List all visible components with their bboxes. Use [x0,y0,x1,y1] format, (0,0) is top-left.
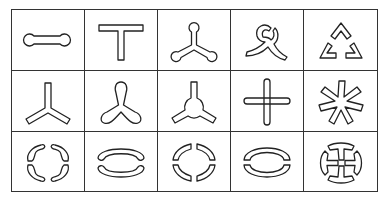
cell-r1-c4 [231,10,304,71]
cell-r1-c3 [158,10,231,71]
cell-r3-c4 [231,132,304,192]
cell-r2-c3 [158,71,231,132]
broken-triangle-icon [305,10,377,70]
cell-r3-c2 [85,132,158,192]
cell-r2-c4 [231,71,304,132]
cell-r2-c5 [304,71,377,132]
four-wavy-arcs-icon [12,132,84,192]
cell-r1-c2 [85,10,158,71]
dumbbell-icon [12,10,84,70]
three-knob-arm-icon [158,10,230,70]
hub-three-arm-icon [158,71,230,131]
cell-r3-c5 [304,132,377,192]
cell-r1-c5 [304,10,377,71]
cell-r2-c1 [12,71,85,132]
shape-grid [11,9,378,192]
cell-r2-c2 [85,71,158,132]
cross-bars-icon [231,71,303,131]
split-circle-cross-icon [305,132,377,192]
cell-r3-c3 [158,132,231,192]
asterisk-icon [305,71,377,131]
two-square-arcs-icon [231,132,303,192]
two-rounded-arcs-icon [85,132,157,192]
four-square-arcs-icon [158,132,230,192]
cell-r3-c1 [12,132,85,192]
y-arm-icon [12,71,84,131]
cell-r1-c1 [12,10,85,71]
t-shape-icon [85,10,157,70]
teardrop-lobes-icon [85,71,157,131]
triskelion-swirl-icon [231,10,303,70]
